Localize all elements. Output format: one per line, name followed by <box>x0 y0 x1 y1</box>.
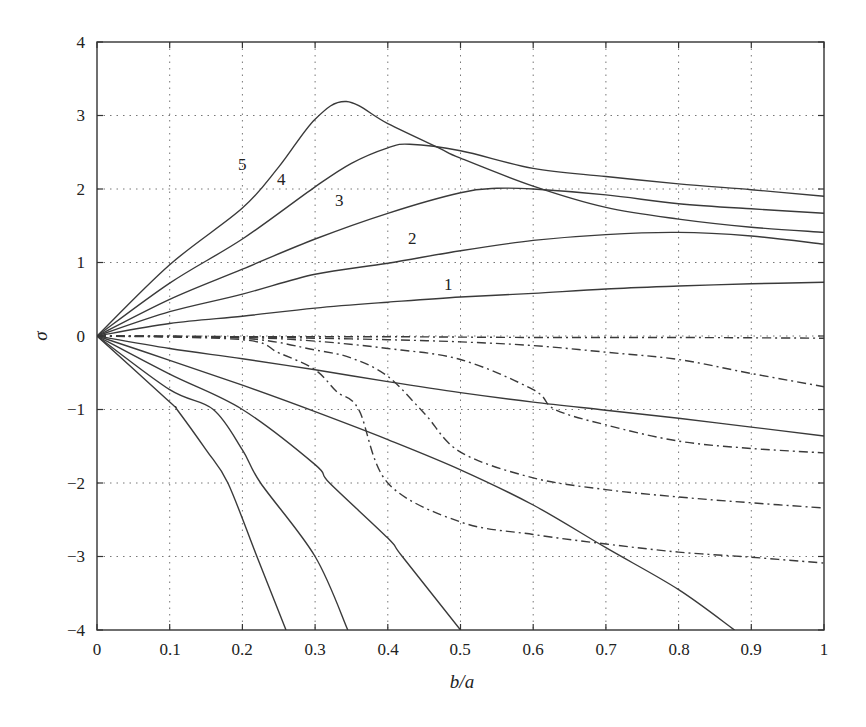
x-tick-label: 1 <box>820 640 829 659</box>
y-tick-label: −1 <box>67 400 85 419</box>
x-tick-labels: 0 0.1 0.2 0.3 0.4 0.5 0.6 0.7 0.8 0.9 1 <box>93 640 829 659</box>
curve-3 <box>97 188 824 336</box>
y-tick-label: −3 <box>67 547 85 566</box>
x-tick-label: 0.5 <box>449 640 470 659</box>
x-tick-label: 0.8 <box>668 640 689 659</box>
x-tick-label: 0 <box>93 640 102 659</box>
y-tick-label: 3 <box>77 106 86 125</box>
x-tick-label: 0.1 <box>159 640 180 659</box>
curve--5 <box>97 336 286 630</box>
curve-label-3: 3 <box>335 191 344 210</box>
y-tick-label: 4 <box>77 33 86 52</box>
curve-label-5: 5 <box>238 155 247 174</box>
curve-label-4: 4 <box>277 170 286 189</box>
curve-labels: 5 4 3 2 1 <box>238 155 453 294</box>
y-tick-label: −2 <box>67 474 85 493</box>
y-axis-label: σ <box>30 331 51 341</box>
curve--4 <box>97 336 348 630</box>
data-curves <box>97 101 824 630</box>
y-tick-labels: 4 3 2 1 0 −1 −2 −3 −4 <box>67 33 86 640</box>
x-tick-label: 0.9 <box>740 640 761 659</box>
y-tick-label: 0 <box>77 327 86 346</box>
y-tick-label: 2 <box>77 180 86 199</box>
x-tick-label: 0.7 <box>595 640 617 659</box>
y-tick-label: −4 <box>67 621 86 640</box>
x-tick-label: 0.6 <box>522 640 543 659</box>
x-tick-label: 0.2 <box>231 640 252 659</box>
sigma-vs-ba-chart: 0 0.1 0.2 0.3 0.4 0.5 0.6 0.7 0.8 0.9 1 … <box>0 0 866 727</box>
curve--1 <box>97 336 824 436</box>
x-tick-label: 0.4 <box>377 640 399 659</box>
curve-label-1: 1 <box>444 275 453 294</box>
y-tick-label: 1 <box>77 253 86 272</box>
x-axis-label: b/a <box>450 671 474 692</box>
curve--3 <box>97 336 461 630</box>
curve-label-2: 2 <box>408 229 417 248</box>
x-tick-label: 0.3 <box>304 640 325 659</box>
